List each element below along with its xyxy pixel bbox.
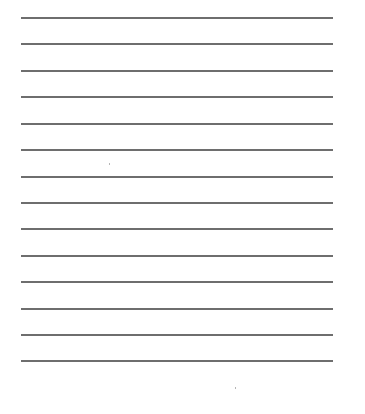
ruled-line (21, 70, 333, 72)
ruled-line (21, 334, 333, 336)
ruled-line (21, 255, 333, 257)
ruled-line (21, 176, 333, 178)
scan-speck (109, 163, 110, 165)
ruled-line (21, 123, 333, 125)
ruled-line (21, 149, 333, 151)
ruled-line (21, 43, 333, 45)
ruled-line (21, 360, 333, 362)
ruled-line (21, 308, 333, 310)
ruled-line (21, 281, 333, 283)
ruled-line (21, 96, 333, 98)
ruled-line (21, 17, 333, 19)
lined-paper-page (0, 0, 365, 414)
ruled-line (21, 228, 333, 230)
scan-speck (235, 387, 236, 389)
ruled-line (21, 202, 333, 204)
